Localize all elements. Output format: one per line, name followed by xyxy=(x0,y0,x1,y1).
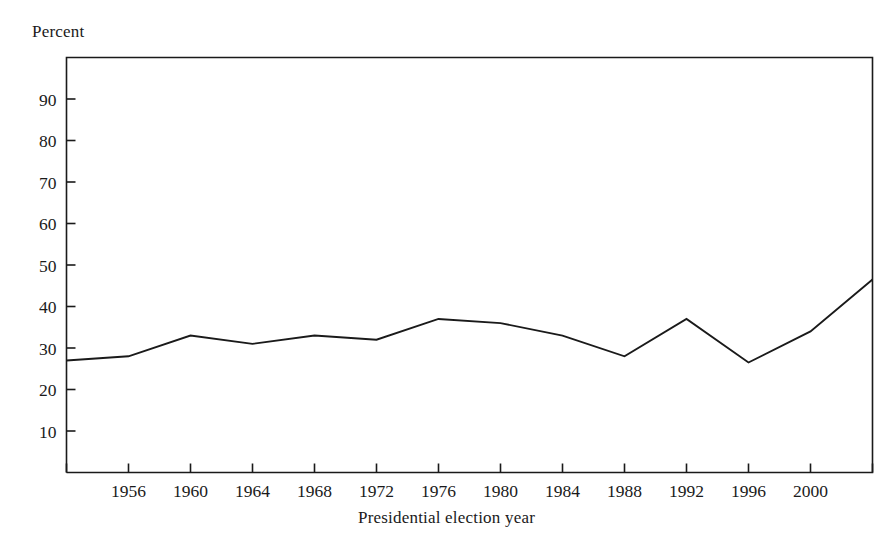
x-axis-title: Presidential election year xyxy=(0,508,893,528)
x-tick-label: 1980 xyxy=(483,481,518,501)
x-tick-label: 1956 xyxy=(111,481,146,501)
series-polyline xyxy=(67,280,873,363)
x-tick-label: 1988 xyxy=(607,481,642,501)
y-tick-label: 40 xyxy=(39,297,57,317)
chart-figure: Percent 102030405060708090 1956196019641… xyxy=(0,0,893,558)
x-tick-label: 2000 xyxy=(793,481,828,501)
y-tick-label: 90 xyxy=(39,90,57,110)
x-tick-label: 1996 xyxy=(731,481,766,501)
line-chart-plot: 102030405060708090 195619601964196819721… xyxy=(0,0,893,558)
x-tick-label: 1972 xyxy=(359,481,394,501)
x-tick-label: 1968 xyxy=(297,481,332,501)
x-tick-label: 1984 xyxy=(545,481,580,501)
x-tick-label: 1992 xyxy=(669,481,704,501)
y-tick-label: 80 xyxy=(39,131,57,151)
data-series-line xyxy=(67,280,873,363)
x-axis-ticks: 1956196019641968197219761980198419881992… xyxy=(67,464,873,501)
x-tick-label: 1976 xyxy=(421,481,456,501)
plot-frame xyxy=(67,58,873,473)
y-tick-label: 60 xyxy=(39,214,57,234)
y-tick-label: 50 xyxy=(39,256,57,276)
y-tick-label: 30 xyxy=(39,339,57,359)
x-tick-label: 1964 xyxy=(235,481,270,501)
x-tick-label: 1960 xyxy=(173,481,208,501)
y-axis-ticks: 102030405060708090 xyxy=(39,90,76,442)
y-tick-label: 70 xyxy=(39,173,57,193)
y-tick-label: 20 xyxy=(39,380,57,400)
y-tick-label: 10 xyxy=(39,422,57,442)
